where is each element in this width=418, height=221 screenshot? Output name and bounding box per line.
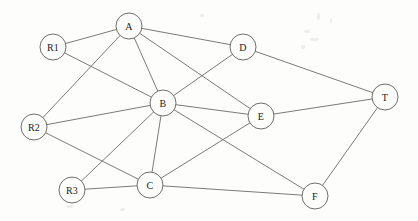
node-label-R1: R1 bbox=[47, 42, 59, 53]
graph-edge-B-E bbox=[176, 105, 248, 115]
network-diagram-canvas: R1ADTBER2R3CF bbox=[0, 0, 418, 221]
graph-node-B[interactable]: B bbox=[150, 90, 176, 116]
node-label-B: B bbox=[160, 98, 167, 109]
node-label-R2: R2 bbox=[28, 122, 40, 133]
graph-edge-E-T bbox=[274, 99, 372, 114]
graph-svg: R1ADTBER2R3CF bbox=[0, 0, 418, 221]
graph-edge-R3-C bbox=[85, 186, 137, 189]
graph-node-D[interactable]: D bbox=[230, 34, 256, 60]
graph-edge-R3-B bbox=[81, 112, 153, 181]
graph-edge-B-C bbox=[152, 116, 161, 172]
graph-edge-D-T bbox=[255, 51, 372, 92]
graph-edge-R1-A bbox=[66, 29, 117, 43]
graph-edge-A-D bbox=[142, 28, 230, 44]
graph-node-R2[interactable]: R2 bbox=[21, 114, 47, 140]
graph-edge-E-C bbox=[161, 123, 250, 178]
graph-edge-B-F bbox=[174, 110, 304, 189]
graph-edge-R2-B bbox=[47, 105, 150, 124]
node-label-C: C bbox=[147, 180, 154, 191]
graph-edge-C-F bbox=[163, 186, 302, 195]
node-label-T: T bbox=[382, 92, 388, 103]
graph-edge-D-B bbox=[174, 54, 233, 95]
edge-layer bbox=[43, 28, 378, 195]
graph-node-A[interactable]: A bbox=[116, 13, 142, 39]
node-label-E: E bbox=[258, 111, 264, 122]
graph-node-E[interactable]: E bbox=[248, 103, 274, 129]
graph-edge-F-T bbox=[323, 108, 378, 186]
graph-edge-R1-B bbox=[65, 53, 152, 97]
graph-node-T[interactable]: T bbox=[372, 84, 398, 110]
graph-edge-A-B bbox=[134, 38, 158, 91]
graph-node-R1[interactable]: R1 bbox=[40, 34, 66, 60]
node-label-A: A bbox=[125, 21, 133, 32]
node-label-F: F bbox=[312, 191, 318, 202]
graph-node-C[interactable]: C bbox=[137, 172, 163, 198]
node-layer: R1ADTBER2R3CF bbox=[21, 13, 398, 209]
node-label-R3: R3 bbox=[66, 185, 78, 196]
graph-node-F[interactable]: F bbox=[302, 183, 328, 209]
node-label-D: D bbox=[239, 42, 246, 53]
graph-node-R3[interactable]: R3 bbox=[59, 177, 85, 203]
